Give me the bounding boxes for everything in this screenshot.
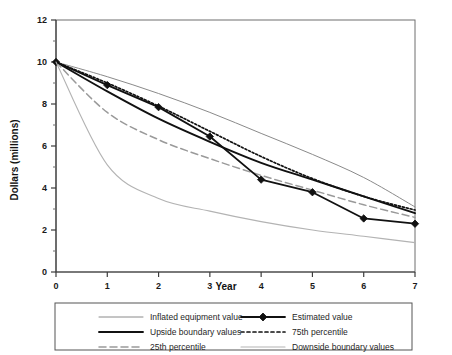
x-tick-label: 2 [156, 281, 161, 291]
x-tick-label: 4 [259, 281, 264, 291]
plot-frame [56, 20, 415, 272]
legend-item-left-label-0[interactable]: Inflated equipment value [150, 312, 243, 322]
legend-item-right-label-1[interactable]: 75th percentile [292, 327, 348, 337]
data-point-marker [411, 220, 418, 227]
legend-item-left-label-2[interactable]: 25th percentile [150, 342, 206, 352]
x-tick-label: 3 [207, 281, 212, 291]
y-tick-label: 6 [42, 141, 47, 151]
x-tick-label: 7 [412, 281, 417, 291]
y-tick-label: 12 [37, 15, 47, 25]
y-tick-label: 0 [42, 267, 47, 277]
y-tick-label: 10 [37, 57, 47, 67]
chart-figure: 024681012 01234567 Year Dollars (million… [0, 0, 452, 355]
data-series-group [52, 58, 418, 242]
x-tick-label: 1 [105, 281, 110, 291]
y-axis: 024681012 [37, 15, 56, 277]
x-axis-title: Year [215, 281, 236, 292]
legend-item-right-label-2[interactable]: Downside boundary values [292, 342, 394, 352]
axis-lines [56, 20, 415, 272]
legend-item-right-label-0[interactable]: Estimated value [292, 312, 353, 322]
y-tick-label: 8 [42, 99, 47, 109]
y-tick-label: 4 [42, 183, 47, 193]
data-point-marker [360, 215, 367, 222]
y-tick-label: 2 [42, 225, 47, 235]
line-chart-canvas: 024681012 01234567 Year Dollars (million… [0, 0, 452, 355]
x-tick-label: 6 [361, 281, 366, 291]
x-tick-label: 5 [310, 281, 315, 291]
legend-item-left-label-1[interactable]: Upside boundary values [150, 327, 241, 337]
x-tick-label: 0 [53, 281, 58, 291]
y-axis-title: Dollars (millions) [9, 119, 20, 200]
series-line-4 [56, 62, 415, 210]
